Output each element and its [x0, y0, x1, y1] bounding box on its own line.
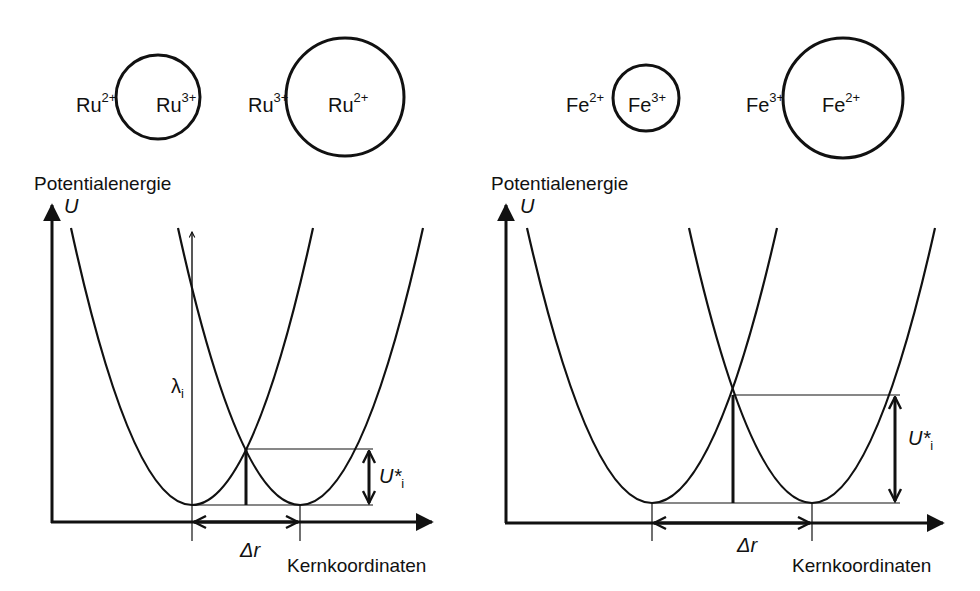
fe-ion-pair-1-inner: Fe3+ [628, 95, 666, 115]
ru-lambda-label: λi [171, 376, 184, 396]
ion-symbol: Fe [566, 94, 589, 116]
ru-delta-r-label: Δr [240, 540, 260, 560]
lambda-subscript: i [181, 386, 184, 401]
ion-charge: 3+ [651, 90, 666, 105]
ion-charge: 3+ [182, 90, 197, 105]
ru-energy-diagram [51, 205, 432, 541]
ru-ion-pair-1-inner: Ru3+ [156, 95, 196, 115]
ion-charge: 2+ [354, 90, 369, 105]
ru-x-axis-title: Kernkoordinaten [287, 556, 426, 575]
activation-symbol: U* [379, 465, 401, 487]
fe-ion-pair-2-outer: Fe3+ [746, 95, 784, 115]
fe-ion-pair-2-inner: Fe2+ [822, 95, 860, 115]
ion-symbol: Fe [628, 94, 651, 116]
ion-charge: 2+ [589, 90, 604, 105]
fe-y-axis-title: Potentialenergie [491, 174, 628, 193]
fe-y-axis-symbol: U [520, 196, 534, 216]
fe-ion-pair-1-outer: Fe2+ [566, 95, 604, 115]
ru-ion-pair-2-outer: Ru3+ [248, 95, 288, 115]
fe-energy-diagram [505, 205, 943, 541]
ion-symbol: Ru [76, 94, 102, 116]
fe-parabola-left [527, 228, 777, 503]
ru-activation-label: U*i [379, 466, 404, 486]
fe-parabola-right [689, 228, 935, 503]
ion-symbol: Ru [328, 94, 354, 116]
ru-y-axis-title: Potentialenergie [34, 174, 171, 193]
lambda-symbol: λ [171, 375, 181, 397]
ion-charge: 2+ [102, 90, 117, 105]
activation-subscript: i [930, 438, 933, 453]
ion-charge: 2+ [845, 90, 860, 105]
ru-y-axis-symbol: U [64, 196, 78, 216]
ion-symbol: Ru [156, 94, 182, 116]
ru-ion-pair-1-outer: Ru2+ [76, 95, 116, 115]
activation-symbol: U* [908, 427, 930, 449]
fe-activation-label: U*i [908, 428, 933, 448]
ion-charge: 3+ [274, 90, 289, 105]
ion-symbol: Fe [822, 94, 845, 116]
fe-delta-r-label: Δr [737, 535, 757, 555]
fe-x-axis-title: Kernkoordinaten [792, 556, 931, 575]
ru-parabola-right [178, 228, 423, 505]
diagram-canvas [0, 0, 980, 591]
ion-symbol: Fe [746, 94, 769, 116]
activation-subscript: i [401, 476, 404, 491]
ion-charge: 3+ [769, 90, 784, 105]
ion-symbol: Ru [248, 94, 274, 116]
ru-ion-pair-2-inner: Ru2+ [328, 95, 368, 115]
